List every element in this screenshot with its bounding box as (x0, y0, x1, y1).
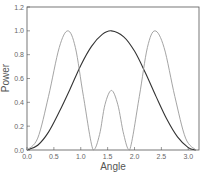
x-tick-label: 2.0 (130, 153, 140, 160)
y-tick-label: 0.4 (14, 99, 24, 106)
y-tick-label: 1.0 (14, 27, 24, 34)
line-chart: 0.00.51.01.52.02.53.00.00.20.40.60.81.01… (0, 0, 205, 176)
x-tick-label: 3.0 (183, 153, 193, 160)
y-tick-label: 0.2 (14, 123, 24, 130)
x-tick-label: 1.5 (103, 153, 113, 160)
y-axis-title: Power (0, 63, 11, 92)
x-tick-label: 1.0 (76, 153, 86, 160)
y-tick-label: 1.2 (14, 4, 24, 11)
x-tick-label: 0.0 (22, 153, 32, 160)
y-tick-label: 0.0 (14, 147, 24, 154)
x-axis-title: Angle (100, 161, 126, 172)
axis-ticks: 0.00.51.01.52.02.53.00.00.20.40.60.81.01… (14, 4, 193, 161)
x-tick-label: 2.5 (157, 153, 167, 160)
y-tick-label: 0.6 (14, 75, 24, 82)
x-tick-label: 0.5 (49, 153, 59, 160)
y-tick-label: 0.8 (14, 51, 24, 58)
series-line-2 (27, 31, 196, 150)
data-series (27, 31, 196, 150)
